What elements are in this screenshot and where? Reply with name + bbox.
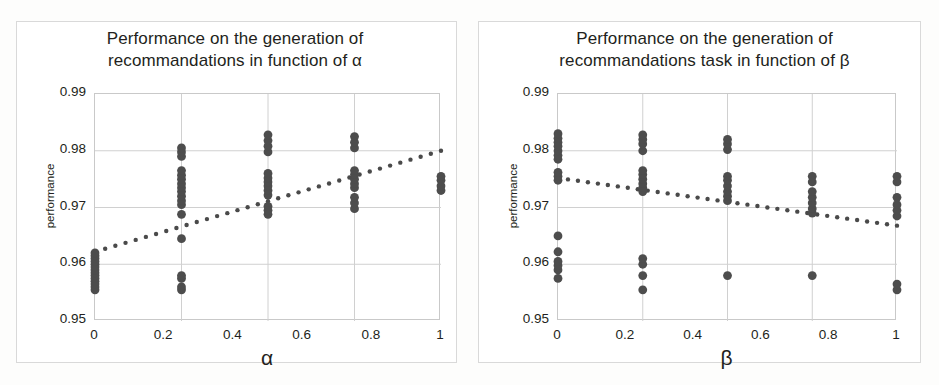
y-tick-label: 0.98 (42, 141, 86, 156)
chart-title-alpha: Performance on the generation of recomma… (0, 28, 470, 73)
y-tick-label: 0.98 (505, 141, 549, 156)
plot-area-beta (557, 93, 896, 320)
chart-panel-alpha: Performance on the generation of recomma… (0, 0, 470, 385)
x-tick-label: 1 (420, 327, 460, 342)
y-tick-label: 0.96 (42, 254, 86, 269)
y-tick-label: 0.97 (505, 198, 549, 213)
x-tick-label: 1 (876, 327, 916, 342)
scatter-svg-beta (558, 94, 897, 321)
x-tick-label: 0 (537, 327, 577, 342)
x-tick-label: 0 (74, 327, 114, 342)
figure-two-scatter-plots: Performance on the generation of recomma… (0, 0, 939, 385)
chart-title-beta: Performance on the generation of recomma… (470, 28, 939, 73)
x-tick-label: 0.8 (351, 327, 391, 342)
x-tick-label: 0.6 (282, 327, 322, 342)
y-tick-label: 0.99 (505, 84, 549, 99)
x-tick-label: 0.8 (808, 327, 848, 342)
plot-area-alpha (94, 93, 440, 320)
y-axis-label-beta: performance (507, 141, 519, 251)
chart-panel-beta: Performance on the generation of recomma… (470, 0, 939, 385)
y-tick-label: 0.99 (42, 84, 86, 99)
x-tick-label: 0.4 (673, 327, 713, 342)
scatter-svg-alpha (95, 94, 441, 321)
x-tick-label: 0.4 (212, 327, 252, 342)
x-tick-label: 0.2 (605, 327, 645, 342)
y-tick-label: 0.97 (42, 198, 86, 213)
x-tick-label: 0.2 (143, 327, 183, 342)
y-axis-label-alpha: performance (44, 141, 56, 251)
x-axis-label-alpha: α (227, 347, 307, 368)
y-tick-label: 0.96 (505, 254, 549, 269)
y-tick-label: 0.95 (505, 311, 549, 326)
x-axis-label-beta: β (687, 347, 767, 368)
x-tick-label: 0.6 (740, 327, 780, 342)
y-tick-label: 0.95 (42, 311, 86, 326)
